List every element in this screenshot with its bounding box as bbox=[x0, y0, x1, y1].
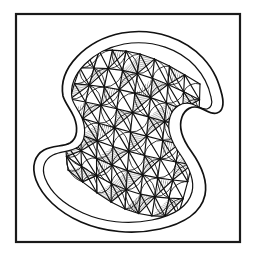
line-drawing-figure bbox=[0, 0, 256, 254]
artboard bbox=[0, 0, 256, 254]
